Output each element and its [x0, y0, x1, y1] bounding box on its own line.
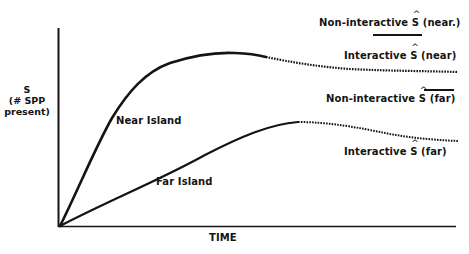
far-island-curve-dotted: [298, 122, 458, 141]
near-island-label: Near Island: [116, 115, 182, 126]
y-axis-label-s: S: [2, 84, 52, 95]
interactive-far-annotation: Interactive S (far): [344, 146, 447, 157]
y-axis-label: S (# SPP present): [2, 84, 52, 117]
s-hat-symbol: S: [419, 93, 426, 104]
noninteractive-near-annotation: Non-interactive S (near.): [319, 17, 461, 28]
interactive-near-annotation: Interactive S (near): [344, 50, 456, 61]
s-hat-symbol: S: [412, 17, 419, 28]
far-island-label: Far Island: [156, 176, 213, 187]
s-hat-symbol: S: [410, 50, 417, 61]
y-axis-label-present: present): [2, 106, 52, 117]
far-island-curve-solid: [60, 122, 298, 226]
chart-canvas: [0, 0, 469, 254]
s-hat-symbol: S: [410, 146, 417, 157]
y-axis-label-spp: (# SPP: [2, 95, 52, 106]
noninteractive-far-annotation: Non-interactive S (far): [326, 93, 455, 104]
x-axis-label: TIME: [209, 232, 237, 243]
